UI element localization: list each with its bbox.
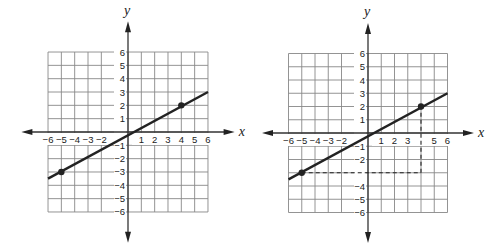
- y-tick-label: −3: [114, 166, 125, 177]
- x-tick-label: 2: [392, 135, 397, 146]
- y-tick-label: −6: [114, 206, 125, 217]
- x-tick-label: −2: [336, 135, 347, 146]
- data-point: [58, 169, 64, 175]
- x-tick-label: 6: [445, 135, 450, 146]
- y-tick-label: 4: [360, 75, 365, 86]
- arrow-right-icon: [463, 130, 474, 136]
- x-tick-label: 2: [152, 134, 157, 145]
- x-tick-label: 4: [179, 134, 184, 145]
- arrow-right-icon: [224, 129, 235, 135]
- data-point: [418, 103, 424, 109]
- x-axis-label: x: [477, 125, 485, 140]
- graph-1: xy−6−5−4−3−2123456654321−1−2−3−4−5−6: [21, 3, 245, 243]
- x-tick-label: −4: [310, 135, 321, 146]
- x-tick-label: −5: [296, 135, 307, 146]
- x-tick-label: 3: [165, 134, 170, 145]
- x-tick-label: −6: [283, 135, 294, 146]
- x-tick-label: 3: [405, 135, 410, 146]
- y-tick-label: 2: [120, 100, 125, 111]
- y-tick-label: −4: [114, 180, 125, 191]
- y-tick-label: −2: [114, 153, 125, 164]
- arrow-up-icon: [125, 21, 131, 32]
- arrow-up-icon: [365, 23, 371, 34]
- y-tick-label: 3: [360, 88, 365, 99]
- x-tick-label: −6: [43, 134, 54, 145]
- y-axis-label: y: [122, 3, 131, 18]
- x-tick-label: −3: [323, 135, 334, 146]
- arrow-down-icon: [365, 232, 371, 243]
- axes: [21, 21, 234, 242]
- y-tick-label: 3: [120, 87, 125, 98]
- axes: [262, 23, 474, 243]
- y-tick-label: −2: [354, 154, 365, 165]
- x-tick-label: −4: [69, 134, 80, 145]
- y-tick-label: 6: [120, 47, 125, 58]
- y-tick-label: 5: [120, 60, 125, 71]
- x-tick-label: 5: [432, 135, 437, 146]
- y-tick-label: −5: [354, 194, 365, 205]
- y-tick-label: 1: [120, 113, 125, 124]
- x-tick-label: −3: [83, 134, 94, 145]
- y-tick-label: −5: [114, 193, 125, 204]
- graph-2: xy−6−5−4−3−212356654321−1−2−4−5−6: [262, 4, 485, 243]
- y-tick-label: −6: [354, 207, 365, 218]
- x-tick-label: −2: [96, 134, 107, 145]
- y-tick-label: 5: [360, 61, 365, 72]
- y-tick-label: −4: [354, 181, 365, 192]
- y-tick-label: 1: [360, 114, 365, 125]
- y-tick-label: 4: [120, 73, 125, 84]
- y-axis-label: y: [362, 4, 371, 19]
- arrow-left-icon: [21, 129, 32, 135]
- arrow-left-icon: [262, 130, 273, 136]
- data-point: [178, 102, 184, 108]
- arrow-down-icon: [125, 232, 131, 243]
- x-tick-label: 1: [139, 134, 144, 145]
- x-tick-label: 6: [205, 134, 210, 145]
- y-tick-label: 6: [360, 48, 365, 59]
- x-tick-label: 5: [192, 134, 197, 145]
- x-axis-label: x: [238, 124, 246, 139]
- data-point: [299, 170, 305, 176]
- x-tick-label: 1: [379, 135, 384, 146]
- x-tick-label: −5: [56, 134, 67, 145]
- y-tick-label: 2: [360, 101, 365, 112]
- chart-canvas: xy−6−5−4−3−2123456654321−1−2−3−4−5−6xy−6…: [0, 0, 500, 247]
